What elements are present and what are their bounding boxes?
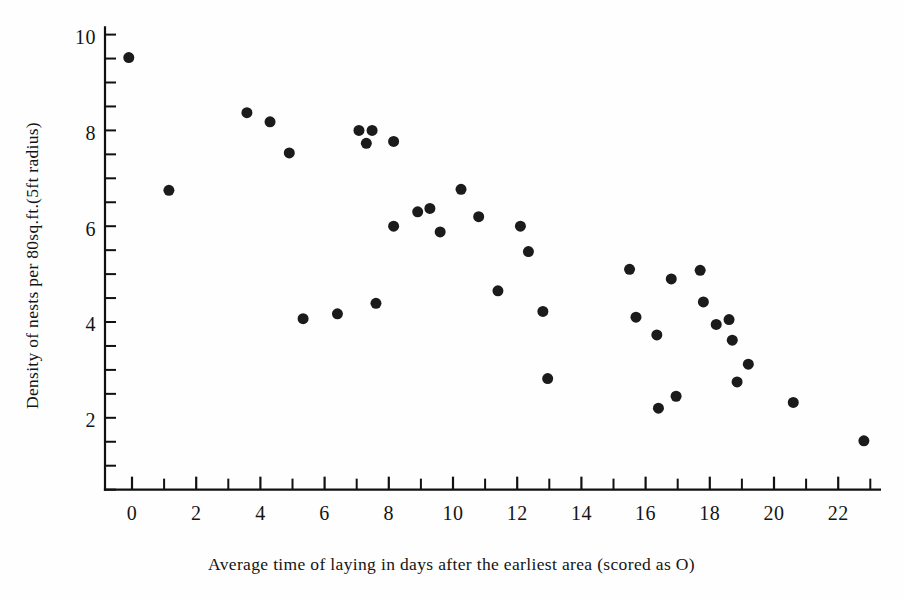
data-point — [298, 313, 309, 324]
data-point — [388, 221, 399, 232]
x-tick-label: 22 — [828, 502, 849, 525]
x-tick-label: 2 — [191, 502, 202, 525]
data-point — [671, 391, 682, 402]
data-point — [265, 116, 276, 127]
scatter-chart-figure: 0246810121416182022 246810 Average time … — [0, 0, 903, 599]
data-point — [241, 107, 252, 118]
y-tick-label: 8 — [36, 121, 96, 144]
y-tick-label: 6 — [36, 217, 96, 240]
data-point — [858, 435, 869, 446]
x-tick-label: 0 — [127, 502, 138, 525]
data-point — [666, 273, 677, 284]
data-point — [698, 296, 709, 307]
data-points-group — [123, 52, 869, 446]
data-point — [353, 125, 364, 136]
data-point — [473, 211, 484, 222]
data-point — [788, 397, 799, 408]
y-tick-label: 10 — [36, 26, 96, 49]
data-point — [695, 265, 706, 276]
data-point — [711, 319, 722, 330]
data-point — [515, 221, 526, 232]
data-point — [332, 308, 343, 319]
data-point — [367, 125, 378, 136]
y-axis-label: Density of nests per 80sq.ft.(5ft radius… — [22, 122, 42, 409]
data-point — [163, 185, 174, 196]
data-point — [630, 312, 641, 323]
data-point — [624, 264, 635, 275]
y-tick-label: 2 — [36, 409, 96, 432]
axes-group — [105, 27, 880, 489]
x-tick-label: 10 — [443, 502, 464, 525]
data-point — [537, 306, 548, 317]
x-tick-label: 4 — [255, 502, 266, 525]
x-tick-label: 8 — [384, 502, 395, 525]
x-tick-label: 16 — [635, 502, 656, 525]
data-point — [456, 184, 467, 195]
x-tick-label: 6 — [319, 502, 330, 525]
data-point — [435, 226, 446, 237]
x-tick-label: 18 — [699, 502, 720, 525]
data-point — [284, 147, 295, 158]
data-point — [653, 403, 664, 414]
data-point — [523, 246, 534, 257]
data-point — [424, 203, 435, 214]
y-tick-label: 4 — [36, 313, 96, 336]
data-point — [388, 136, 399, 147]
x-tick-label: 20 — [764, 502, 785, 525]
x-tick-label: 14 — [571, 502, 592, 525]
data-point — [542, 373, 553, 384]
x-axis-label: Average time of laying in days after the… — [0, 554, 903, 575]
data-point — [724, 314, 735, 325]
data-point — [370, 298, 381, 309]
data-point — [651, 329, 662, 340]
data-point — [361, 138, 372, 149]
data-point — [123, 52, 134, 63]
data-point — [412, 206, 423, 217]
y-axis-label-container: Density of nests per 80sq.ft.(5ft radius… — [22, 56, 43, 476]
data-point — [492, 285, 503, 296]
data-point — [727, 335, 738, 346]
data-point — [743, 359, 754, 370]
x-tick-label: 12 — [507, 502, 528, 525]
data-point — [732, 376, 743, 387]
